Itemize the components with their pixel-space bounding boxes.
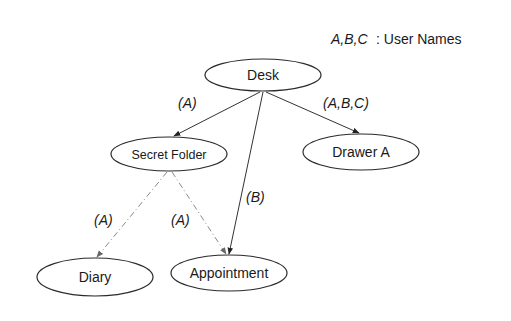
drawer-a-label: Drawer A [332,144,390,160]
edge-label-secret-folder-diary: (A) [94,212,113,228]
node-secret-folder: Secret Folder [111,137,227,171]
legend-keys: A,B,C [330,31,368,47]
edge-label-desk-secret-folder: (A) [178,95,197,111]
node-diary: Diary [37,258,153,296]
node-drawer-a: Drawer A [303,134,419,170]
edges [97,92,359,257]
access-permission-diagram: A,B,C : User Names (A) (A,B,C) (B) (A) (… [0,0,511,321]
edge-label-desk-drawer-a: (A,B,C) [323,95,369,111]
edge-label-desk-appointment: (B) [246,189,265,205]
legend: A,B,C : User Names [330,31,462,47]
appointment-label: Appointment [190,265,269,281]
secret-folder-label: Secret Folder [131,148,206,162]
node-appointment: Appointment [171,255,287,291]
legend-description: : User Names [376,31,462,47]
diary-label: Diary [79,269,112,285]
node-desk: Desk [205,59,321,91]
edge-label-secret-folder-appointment: (A) [171,212,190,228]
edge-desk-appointment [229,92,263,254]
desk-label: Desk [247,67,280,83]
